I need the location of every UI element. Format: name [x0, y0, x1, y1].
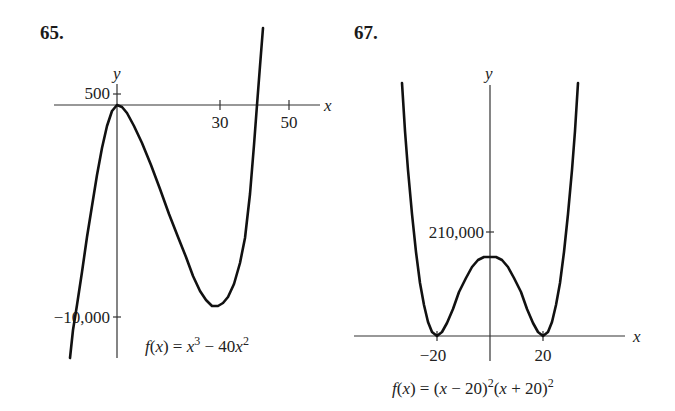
- formula-65: f(x) = x3 − 40x2: [145, 334, 249, 356]
- x-axis-label-65: x: [323, 96, 332, 115]
- tick-label-20: 20: [535, 346, 552, 365]
- y-axis-label-65: y: [111, 64, 121, 83]
- y-axis-label-67: y: [483, 64, 493, 83]
- graph-65: y 500 30 50 x −10,000 f(x) = x3 − 40x2: [54, 28, 332, 358]
- tick-label-30: 30: [212, 113, 229, 132]
- tick-label-neg10000: −10,000: [54, 308, 110, 327]
- tick-label-50: 50: [281, 113, 298, 132]
- tick-label-neg20: −20: [420, 346, 447, 365]
- formula-67: f(x) = (x − 20)2(x + 20)2: [392, 376, 554, 398]
- tick-label-210000: 210,000: [429, 223, 484, 242]
- graphs-canvas: y 500 30 50 x −10,000 f(x) = x3 − 40x2 y…: [0, 0, 675, 411]
- tick-label-500: 500: [85, 84, 111, 103]
- graph-67: y 210,000 −20 20 x f(x) = (x − 20)2(x + …: [354, 64, 641, 398]
- x-axis-label-67: x: [632, 327, 641, 346]
